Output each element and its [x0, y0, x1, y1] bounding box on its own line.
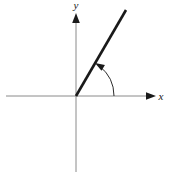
x-axis-label: x [158, 90, 164, 102]
coordinate-plane-svg: x y [0, 0, 169, 177]
y-axis-label: y [73, 0, 79, 11]
angle-diagram-figure: x y [0, 0, 169, 177]
figure-background [0, 0, 169, 177]
